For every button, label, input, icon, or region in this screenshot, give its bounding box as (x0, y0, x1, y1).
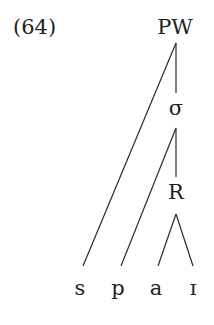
branch-r-i (176, 214, 193, 266)
node-rhyme: R (168, 182, 184, 203)
segment-a: a (150, 278, 163, 299)
tree-branches (0, 0, 214, 325)
node-pw: PW (157, 17, 193, 38)
node-syllable: σ (169, 98, 183, 119)
branch-pw-s (83, 43, 176, 266)
branch-r-a (158, 214, 176, 266)
segment-i: ɪ (190, 278, 197, 299)
segment-p: p (111, 278, 124, 299)
segment-s: s (75, 278, 86, 299)
